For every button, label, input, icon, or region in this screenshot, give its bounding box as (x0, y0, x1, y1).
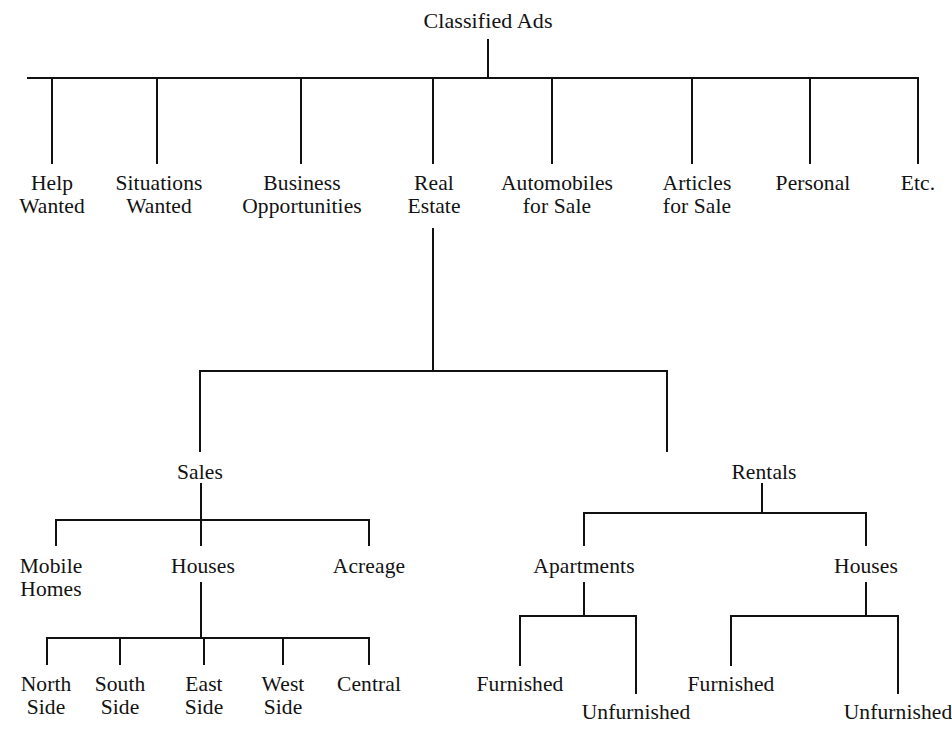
node-mobile-homes-line2: Homes (20, 578, 83, 601)
node-houses-rentals-label: Houses (834, 554, 898, 578)
node-east-side-line1: East (185, 672, 222, 696)
node-north-side: North Side (21, 673, 72, 719)
node-articles-for-sale: Articles for Sale (663, 172, 732, 218)
node-classified-ads-label: Classified Ads (423, 8, 552, 33)
node-houses-sales: Houses (171, 555, 235, 578)
node-rentals: Rentals (731, 461, 796, 484)
node-houses-unfurnished-label: Unfurnished (844, 700, 952, 724)
node-help-wanted-line2: Wanted (19, 195, 85, 218)
node-acreage: Acreage (333, 555, 405, 578)
node-situations-wanted: Situations Wanted (115, 172, 202, 218)
node-apartments-label: Apartments (533, 554, 634, 578)
node-sales: Sales (177, 461, 223, 484)
node-south-side: South Side (95, 673, 146, 719)
node-help-wanted: Help Wanted (19, 172, 85, 218)
node-automobiles-for-sale-line2: for Sale (501, 195, 613, 218)
node-east-side: East Side (185, 673, 224, 719)
node-south-side-line2: Side (95, 696, 146, 719)
node-automobiles-for-sale-line1: Automobiles (501, 171, 613, 195)
node-situations-wanted-line2: Wanted (115, 195, 202, 218)
node-classified-ads: Classified Ads (423, 9, 552, 33)
node-houses-rentals: Houses (834, 555, 898, 578)
node-west-side-line2: Side (262, 696, 305, 719)
node-central-label: Central (337, 672, 401, 696)
node-sales-label: Sales (177, 460, 223, 484)
node-apartments-unfurnished: Unfurnished (582, 701, 691, 724)
node-west-side-line1: West (262, 672, 305, 696)
node-real-estate: Real Estate (407, 172, 460, 218)
node-personal: Personal (776, 172, 851, 195)
node-houses-furnished-label: Furnished (688, 672, 775, 696)
node-apartments-furnished: Furnished (477, 673, 564, 696)
node-apartments-unfurnished-label: Unfurnished (582, 700, 691, 724)
node-automobiles-for-sale: Automobiles for Sale (501, 172, 613, 218)
node-houses-furnished: Furnished (688, 673, 775, 696)
node-apartments: Apartments (533, 555, 634, 578)
node-houses-unfurnished: Unfurnished (844, 701, 952, 724)
node-real-estate-line1: Real (414, 171, 454, 195)
node-business-opportunities-line1: Business (263, 171, 340, 195)
node-houses-sales-label: Houses (171, 554, 235, 578)
node-articles-for-sale-line2: for Sale (663, 195, 732, 218)
node-north-side-line1: North (21, 672, 72, 696)
node-etc-label: Etc. (901, 171, 935, 195)
node-mobile-homes-line1: Mobile (20, 554, 83, 578)
node-acreage-label: Acreage (333, 554, 405, 578)
node-help-wanted-line1: Help (31, 171, 73, 195)
node-business-opportunities-line2: Opportunities (242, 195, 362, 218)
node-central: Central (337, 673, 401, 696)
node-west-side: West Side (262, 673, 305, 719)
node-apartments-furnished-label: Furnished (477, 672, 564, 696)
node-situations-wanted-line1: Situations (115, 171, 202, 195)
node-personal-label: Personal (776, 171, 851, 195)
node-etc: Etc. (901, 172, 935, 195)
node-mobile-homes: Mobile Homes (20, 555, 83, 601)
node-north-side-line2: Side (21, 696, 72, 719)
node-real-estate-line2: Estate (407, 195, 460, 218)
node-business-opportunities: Business Opportunities (242, 172, 362, 218)
node-south-side-line1: South (95, 672, 146, 696)
node-articles-for-sale-line1: Articles (663, 171, 732, 195)
node-east-side-line2: Side (185, 696, 224, 719)
node-rentals-label: Rentals (731, 460, 796, 484)
